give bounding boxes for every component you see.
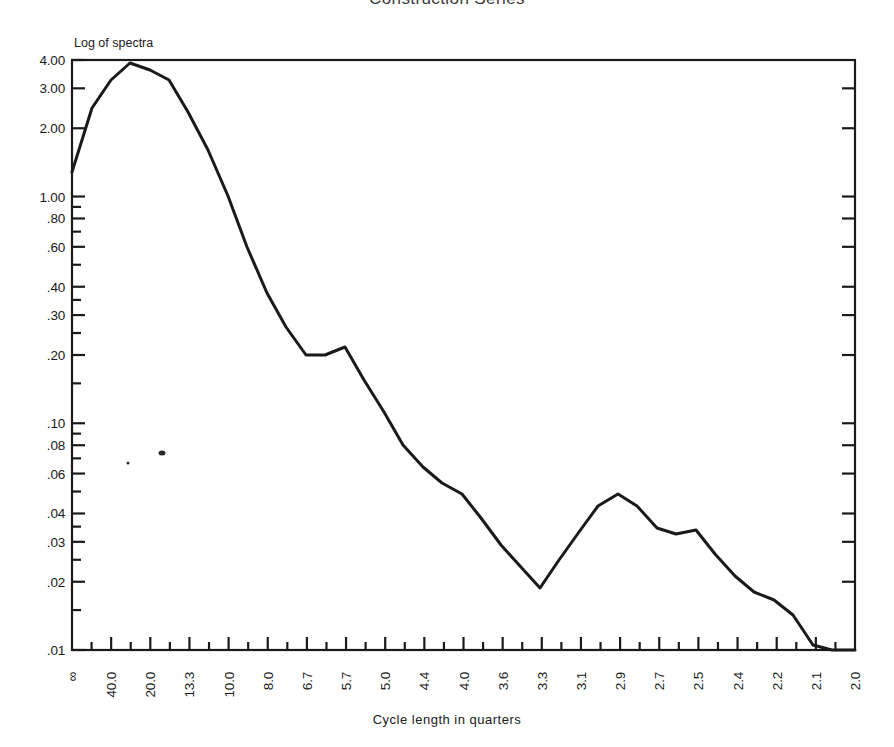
x-axis-ticks: ∞40.020.013.310.08.06.75.75.04.44.03.63.… [65,637,863,697]
x-tick-label: 2.2 [770,672,785,690]
y-tick-label: .10 [47,416,65,431]
y-tick-label: .20 [47,348,65,363]
plot-frame [72,60,855,650]
x-tick-label: 40.0 [104,672,119,697]
y-tick-label: .01 [47,643,65,658]
chart-figure: Construction Series Log of spectra Cycle… [0,0,894,747]
y-tick-label: 4.00 [40,53,65,68]
y-tick-label: 3.00 [40,81,65,96]
y-tick-label: 2.00 [40,121,65,136]
y-tick-label: .02 [47,575,65,590]
x-tick-label: 2.0 [848,672,863,690]
y-tick-label: .04 [47,506,66,521]
y-tick-label: .30 [47,308,65,323]
y-tick-label: 1.00 [40,190,65,205]
data-series-line [72,63,855,650]
y-tick-label: .60 [47,240,65,255]
x-tick-label: 3.3 [535,672,550,690]
x-tick-label: 2.9 [613,672,628,690]
x-tick-label: 3.6 [496,672,511,690]
y-tick-label: .40 [47,280,65,295]
x-tick-label: 4.0 [457,672,472,690]
x-tick-label: 20.0 [143,672,158,697]
y-axis-ticks-right [842,88,855,581]
plot-border [72,60,855,650]
scan-artifacts [127,451,166,465]
x-tick-label: 10.0 [222,672,237,697]
y-tick-label: .80 [47,211,65,226]
x-tick-label: 2.5 [691,672,706,690]
y-tick-label: .06 [47,467,65,482]
x-tick-label: 2.4 [731,671,746,690]
x-tick-label: 5.0 [378,672,393,690]
y-tick-label: .03 [47,535,65,550]
x-tick-label: 13.3 [182,672,197,697]
scan-speck [159,451,166,456]
x-tick-label: 6.7 [300,672,315,690]
x-tick-label: ∞ [65,671,80,681]
plot-area: 4.003.002.001.00.80.60.40.30.20.10.08.06… [0,0,894,747]
x-tick-label: 3.1 [574,672,589,690]
x-tick-label: 2.1 [809,672,824,690]
x-tick-label: 8.0 [261,672,276,690]
x-tick-label: 4.4 [417,671,432,690]
scan-speck [127,462,130,465]
y-axis-ticks: 4.003.002.001.00.80.60.40.30.20.10.08.06… [40,53,85,658]
x-tick-label: 2.7 [652,672,667,690]
y-tick-label: .08 [47,438,65,453]
x-tick-label: 5.7 [339,672,354,690]
